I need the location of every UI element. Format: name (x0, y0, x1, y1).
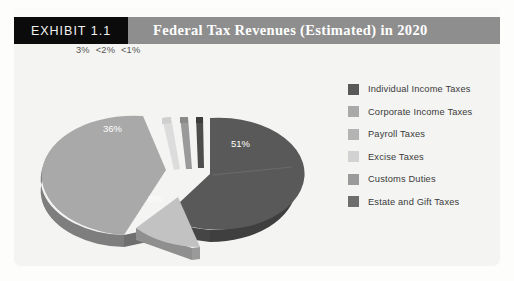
slice-top-customs (180, 117, 192, 169)
slice-side-payroll-b (192, 247, 200, 260)
exhibit-header: EXHIBIT 1.1 Federal Tax Revenues (Estima… (14, 17, 500, 44)
pie-chart: 3% <2% <1% 51% 36% 8% (14, 44, 344, 266)
legend-label: Customs Duties (368, 174, 436, 184)
legend-label: Individual Income Taxes (368, 84, 471, 94)
chart-legend: Individual Income Taxes Corporate Income… (348, 78, 498, 213)
legend-label: Estate and Gift Taxes (368, 197, 459, 207)
slice-side-customs (180, 117, 188, 123)
chart-body: 3% <2% <1% 51% 36% 8% Individual Income … (14, 44, 500, 266)
legend-item-payroll-taxes[interactable]: Payroll Taxes (348, 123, 498, 146)
slice-side-excise (162, 117, 171, 124)
legend-item-customs-duties[interactable]: Customs Duties (348, 168, 498, 191)
legend-swatch-icon (348, 196, 359, 207)
exhibit-figure: EXHIBIT 1.1 Federal Tax Revenues (Estima… (0, 0, 514, 281)
exhibit-tag-label: EXHIBIT 1.1 (31, 24, 111, 38)
exhibit-title: Federal Tax Revenues (Estimated) in 2020 (153, 22, 428, 39)
panel-highlight (14, 8, 500, 17)
slice-top-excise (162, 117, 180, 170)
legend-swatch-icon (348, 84, 359, 95)
small-slice-labels: 3% <2% <1% (76, 45, 143, 55)
legend-item-individual-income-taxes[interactable]: Individual Income Taxes (348, 78, 498, 101)
slice-label-excise: 3% (76, 45, 90, 55)
legend-swatch-icon (348, 151, 359, 162)
slice-label-customs: <2% (96, 45, 115, 55)
legend-item-estate-and-gift-taxes[interactable]: Estate and Gift Taxes (348, 191, 498, 214)
pie-chart-svg (14, 44, 344, 266)
exhibit-title-block: Federal Tax Revenues (Estimated) in 2020 (128, 17, 500, 44)
legend-label: Corporate Income Taxes (368, 107, 472, 117)
legend-swatch-icon (348, 129, 359, 140)
slice-side-estate (196, 117, 203, 123)
legend-swatch-icon (348, 106, 359, 117)
exhibit-tag-block: EXHIBIT 1.1 (14, 17, 128, 44)
slice-label-estate: <1% (121, 45, 140, 55)
slice-top-estate (196, 117, 204, 168)
legend-label: Excise Taxes (368, 152, 424, 162)
legend-swatch-icon (348, 174, 359, 185)
legend-label: Payroll Taxes (368, 129, 425, 139)
legend-item-corporate-income-taxes[interactable]: Corporate Income Taxes (348, 101, 498, 124)
legend-item-excise-taxes[interactable]: Excise Taxes (348, 146, 498, 169)
